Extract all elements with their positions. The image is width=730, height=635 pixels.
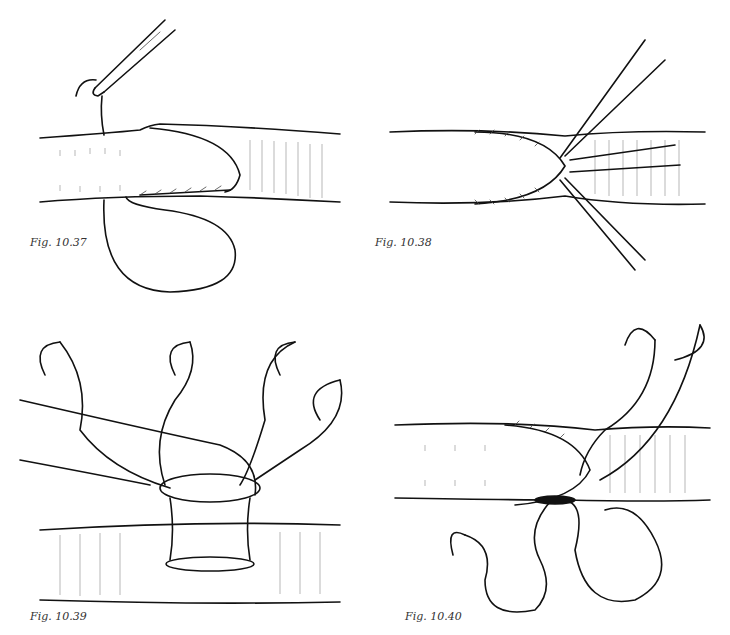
figure-caption: Fig. 10.39 [30, 610, 87, 623]
anastomosis-illustration-4 [365, 320, 730, 635]
anastomosis-illustration-3 [0, 320, 365, 635]
anastomosis-illustration-1 [0, 0, 365, 300]
figure-10-39: Fig. 10.39 [0, 320, 365, 635]
figure-caption: Fig. 10.37 [30, 236, 87, 249]
figure-10-37: Fig. 10.37 [0, 0, 365, 300]
figure-10-40: Fig. 10.40 [365, 320, 730, 635]
figure-10-38: Fig. 10.38 [365, 0, 730, 300]
anastomosis-illustration-2 [365, 0, 730, 300]
figure-caption: Fig. 10.40 [405, 610, 462, 623]
figure-caption: Fig. 10.38 [375, 236, 432, 249]
